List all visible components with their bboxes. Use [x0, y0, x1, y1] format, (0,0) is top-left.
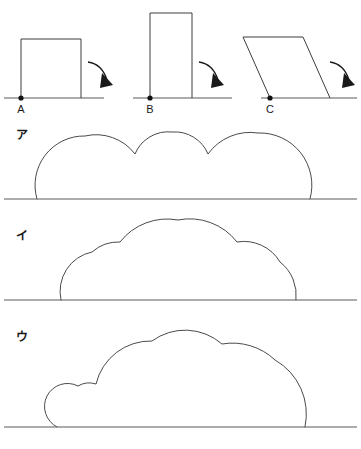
- rotation-arrow-c-head: [342, 73, 355, 88]
- roll-curve-b: [60, 219, 296, 300]
- answer-choice-c[interactable]: ウ: [4, 330, 357, 427]
- shape-label-b: B: [146, 103, 153, 115]
- shape-group-b: B: [146, 13, 224, 115]
- figure-page: A B C ア イ: [0, 0, 361, 449]
- pivot-dot-a: [18, 95, 23, 100]
- roll-curve-c: [44, 330, 306, 427]
- rotation-arrow-a-head: [100, 73, 113, 88]
- shape-group-a: A: [17, 39, 113, 115]
- shape-label-c: C: [266, 103, 274, 115]
- roll-curve-a: [35, 132, 312, 199]
- shape-group-c: C: [243, 37, 355, 115]
- choice-label-b: イ: [16, 229, 28, 243]
- answer-choice-a[interactable]: ア: [4, 128, 357, 199]
- shape-label-a: A: [17, 103, 25, 115]
- rectangle-shape-b: [150, 13, 192, 98]
- choice-label-a: ア: [16, 128, 28, 142]
- square-shape-a: [21, 39, 81, 98]
- geometry-figure: A B C ア イ: [0, 0, 361, 449]
- rotation-arrow-b-head: [211, 73, 224, 88]
- pivot-dot-b: [147, 95, 152, 100]
- choice-label-c: ウ: [16, 330, 28, 344]
- parallelogram-shape-c: [243, 37, 330, 98]
- answer-choice-b[interactable]: イ: [4, 219, 357, 300]
- pivot-dot-c: [267, 95, 272, 100]
